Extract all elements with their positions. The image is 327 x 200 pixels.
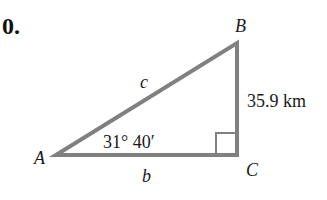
- side-label-bc: 35.9 km: [247, 91, 306, 111]
- side-label-b: b: [142, 166, 151, 186]
- side-label-c: c: [140, 72, 148, 92]
- right-angle-marker: [216, 133, 237, 155]
- vertex-label-a: A: [33, 148, 46, 168]
- triangle-diagram: 0. B A C c b 35.9 km 31° 40′: [0, 0, 327, 200]
- vertex-label-c: C: [246, 160, 259, 180]
- problem-number: 0.: [2, 13, 20, 39]
- angle-label-a: 31° 40′: [103, 132, 155, 152]
- vertex-label-b: B: [235, 16, 246, 36]
